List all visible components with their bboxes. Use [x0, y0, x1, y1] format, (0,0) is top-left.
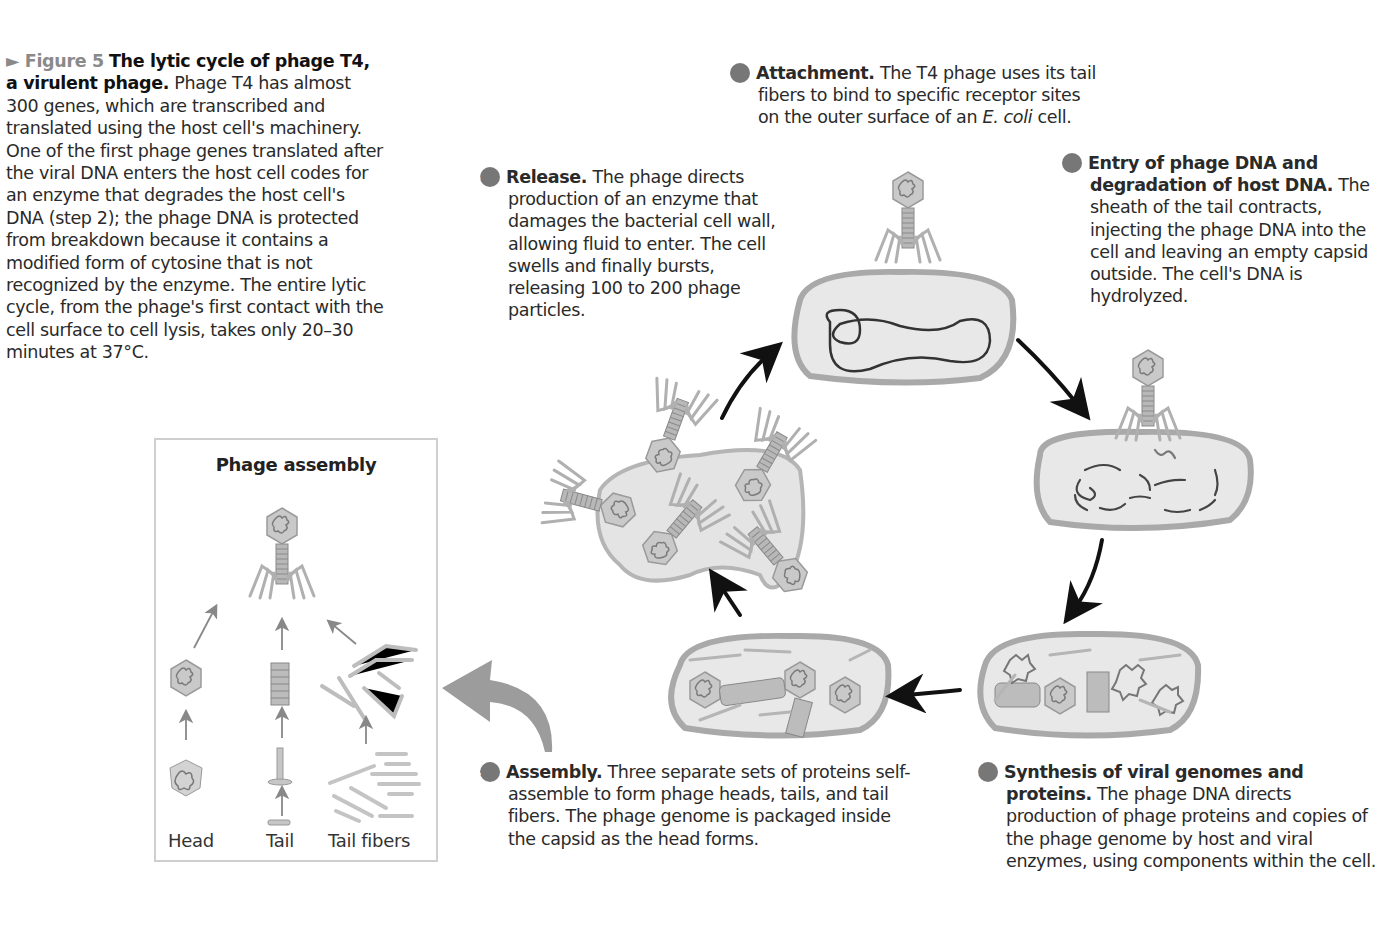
tail-sheath-part — [995, 683, 1040, 707]
head-precursor — [170, 760, 202, 796]
baseplate — [268, 820, 290, 825]
tail-fibers-parts — [330, 754, 419, 821]
tail-fibers-assembled — [322, 646, 416, 718]
arrow-1-to-2 — [1018, 340, 1078, 405]
label-tail: Tail — [266, 830, 294, 851]
head-capsid — [171, 660, 201, 696]
phage-assembly-panel: Phage assembly — [154, 438, 438, 862]
cell-attachment — [794, 172, 1013, 383]
cell-assembly — [671, 636, 888, 738]
tail-core — [277, 748, 283, 782]
cell-synthesis — [980, 634, 1198, 736]
label-head: Head — [168, 830, 214, 851]
assembled-phage — [250, 508, 314, 598]
cell-entry — [1037, 350, 1251, 528]
cell-lysis — [540, 376, 826, 609]
arrow-2-to-3 — [1075, 540, 1102, 608]
assembly-illustration — [154, 438, 438, 862]
arrow-4-to-5 — [720, 585, 740, 615]
arrow-3-to-4 — [905, 690, 960, 695]
label-tail-fibers: Tail fibers — [328, 830, 410, 851]
phage-attached — [876, 172, 940, 262]
phage-injecting — [1116, 350, 1180, 440]
assembly-detail-arrow — [442, 660, 552, 752]
